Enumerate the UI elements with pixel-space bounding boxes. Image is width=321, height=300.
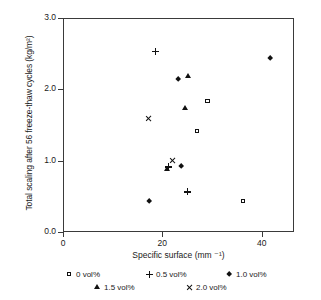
diamond-marker-icon (178, 163, 184, 169)
ex-marker-icon (169, 157, 176, 164)
legend-item: 1.5 vol% (91, 282, 183, 293)
square-marker-icon (63, 269, 76, 280)
plus-marker-icon (184, 188, 191, 195)
ex-marker-icon (145, 115, 152, 122)
legend-item: 2.0 vol% (183, 282, 275, 293)
plus-marker-icon (152, 48, 159, 55)
x-tick-label: 40 (247, 238, 277, 248)
x-tick-label: 0 (48, 238, 78, 248)
legend-item: 1.0 vol% (223, 269, 303, 280)
square-marker-icon (205, 99, 209, 103)
plot-area (63, 18, 294, 232)
legend-label: 1.5 vol% (104, 283, 135, 292)
plus-marker-icon (143, 269, 156, 280)
x-tick-mark (262, 232, 263, 237)
square-marker-icon (195, 129, 199, 133)
ex-marker-icon (183, 282, 196, 293)
legend-row: 1.5 vol%2.0 vol% (63, 281, 303, 294)
y-tick-label: 0.0 (26, 226, 56, 236)
legend-label: 0.5 vol% (156, 270, 187, 279)
triangle-marker-icon (185, 73, 191, 78)
legend-row: 0 vol%0.5 vol%1.0 vol% (63, 268, 303, 281)
legend-item: 0.5 vol% (143, 269, 223, 280)
y-tick-label: 2.0 (26, 83, 56, 93)
diamond-marker-icon (223, 269, 236, 280)
square-marker-icon (241, 199, 245, 203)
legend-label: 1.0 vol% (236, 270, 267, 279)
x-axis-title: Specific surface (mm ⁻¹) (63, 250, 294, 260)
scatter-chart-figure: Total scaling after 56 freeze-thaw cycle… (0, 0, 321, 300)
diamond-marker-icon (268, 55, 274, 61)
y-axis-title: Total scaling after 56 freeze-thaw cycle… (24, 0, 34, 248)
triangle-marker-icon (182, 105, 188, 110)
y-tick-label: 3.0 (26, 12, 56, 22)
triangle-marker-icon (91, 282, 104, 293)
x-tick-label: 20 (147, 238, 177, 248)
legend-label: 2.0 vol% (196, 283, 227, 292)
chart-legend: 0 vol%0.5 vol%1.0 vol%1.5 vol%2.0 vol% (63, 268, 303, 294)
diamond-marker-icon (175, 77, 181, 83)
triangle-marker-icon (164, 166, 170, 171)
legend-label: 0 vol% (76, 270, 100, 279)
x-tick-mark (63, 232, 64, 237)
legend-item: 0 vol% (63, 269, 143, 280)
x-tick-mark (162, 232, 163, 237)
diamond-marker-icon (146, 198, 152, 204)
y-tick-label: 1.0 (26, 155, 56, 165)
